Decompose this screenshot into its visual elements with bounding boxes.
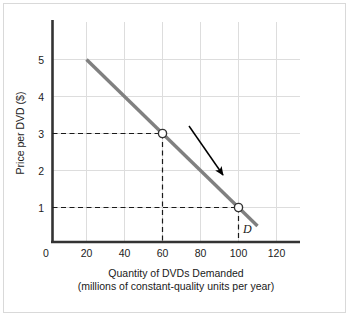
y-tick-label-4: 4: [38, 91, 44, 103]
demand-curve-chart: 0 20 40 60 80 100 120 1 2 3 4 5 D Price …: [0, 0, 349, 316]
x-axis-subtitle: (millions of constant-quality units per …: [78, 280, 275, 292]
point-60-3-marker: [158, 129, 166, 137]
figure-root: 0 20 40 60 80 100 120 1 2 3 4 5 D Price …: [0, 0, 349, 316]
demand-curve-line: [87, 60, 258, 227]
x-tick-label-0: 0: [43, 247, 49, 259]
x-tick-label-120: 120: [268, 247, 286, 259]
x-axis-title: Quantity of DVDs Demanded: [108, 267, 244, 279]
x-tick-label-60: 60: [157, 247, 169, 259]
x-tick-label-40: 40: [119, 247, 131, 259]
y-tick-label-5: 5: [38, 54, 44, 66]
y-tick-label-3: 3: [38, 128, 44, 140]
y-axis-title: Price per DVD ($): [14, 92, 26, 175]
y-tick-label-1: 1: [38, 202, 44, 214]
x-tick-label-80: 80: [195, 247, 207, 259]
point-100-1-marker: [234, 203, 242, 211]
x-tick-label-100: 100: [230, 247, 248, 259]
x-tick-label-20: 20: [81, 247, 93, 259]
demand-curve-label: D: [242, 222, 252, 236]
y-tick-label-2: 2: [38, 165, 44, 177]
vertical-gridlines: [87, 22, 277, 242]
guide-lines: [53, 134, 239, 243]
